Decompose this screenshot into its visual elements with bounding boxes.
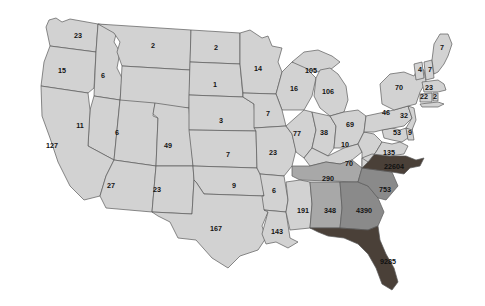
state-value-md: 53 — [393, 129, 401, 136]
state-value-id: 6 — [101, 72, 105, 79]
state-value-ga: 4390 — [356, 207, 372, 214]
state-value-nd: 2 — [214, 44, 218, 51]
state-shape-mn[interactable] — [240, 30, 282, 94]
state-value-vt: 4 — [418, 66, 422, 73]
state-value-ny: 70 — [395, 84, 403, 91]
state-value-mil: 106 — [322, 88, 334, 95]
state-value-pa: 46 — [382, 109, 390, 116]
state-shape-long-island — [420, 102, 444, 107]
state-value-me: 7 — [440, 44, 444, 51]
state-value-wi: 16 — [290, 85, 298, 92]
state-value-sc: 753 — [379, 186, 391, 193]
state-value-miu: 105 — [305, 67, 317, 74]
state-value-ok: 9 — [232, 182, 236, 189]
state-shape-or[interactable] — [41, 46, 96, 93]
state-value-fl: 9285 — [380, 258, 396, 265]
state-value-ia: 7 — [266, 110, 270, 117]
state-value-oh: 69 — [346, 121, 354, 128]
state-shape-ut[interactable] — [114, 100, 158, 166]
state-value-ky: 10 — [341, 141, 349, 148]
state-shape-me[interactable] — [432, 34, 452, 74]
state-value-nm: 23 — [153, 186, 161, 193]
state-value-il: 77 — [293, 130, 301, 137]
state-shape-ks[interactable] — [189, 130, 257, 168]
state-value-ma: 23 — [425, 84, 433, 91]
state-value-nv: 11 — [76, 122, 84, 129]
state-shape-co[interactable] — [153, 103, 193, 166]
state-value-co: 49 — [164, 142, 172, 149]
state-value-de: 9 — [408, 129, 412, 136]
state-value-or: 15 — [58, 67, 66, 74]
state-value-az: 27 — [107, 182, 115, 189]
state-value-va: 135 — [383, 149, 395, 156]
state-value-sd: 1 — [213, 81, 217, 88]
state-value-mt: 2 — [151, 42, 155, 49]
state-value-ks: 7 — [226, 151, 230, 158]
state-value-ne: 3 — [219, 117, 223, 124]
state-value-tx: 167 — [210, 225, 222, 232]
state-shape-ne[interactable] — [189, 95, 256, 131]
state-value-ar: 6 — [272, 187, 276, 194]
us-choropleth-map: 2315622137916714167236143105106773869102… — [0, 0, 485, 306]
state-value-ct: 22 — [420, 93, 428, 100]
state-value-al: 348 — [324, 207, 336, 214]
state-value-nc: 22604 — [384, 163, 404, 170]
state-value-la: 143 — [271, 228, 283, 235]
state-value-nh: 7 — [428, 66, 432, 73]
state-value-wa: 23 — [74, 32, 82, 39]
state-shape-ok[interactable] — [193, 166, 264, 196]
state-value-wv: 70 — [345, 160, 353, 167]
state-value-ca: 127 — [46, 142, 58, 149]
state-value-ri: 2 — [433, 93, 437, 100]
state-value-tn: 290 — [322, 175, 334, 182]
state-value-in: 38 — [320, 129, 328, 136]
state-value-ut: 6 — [115, 129, 119, 136]
state-value-nj: 32 — [400, 112, 408, 119]
state-value-mo: 23 — [269, 149, 277, 156]
state-shape-al[interactable] — [310, 182, 342, 228]
state-value-ms: 191 — [297, 207, 309, 214]
map-svg — [0, 0, 485, 306]
state-value-mn: 14 — [254, 65, 262, 72]
state-shape-ms[interactable] — [286, 180, 312, 230]
